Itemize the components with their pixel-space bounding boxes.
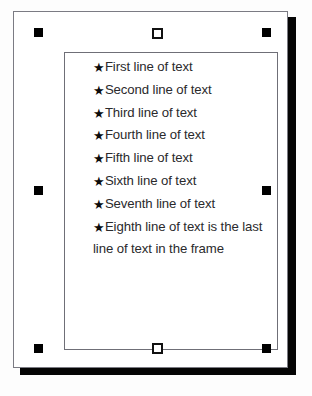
text-line-6: ★Sixth line of text <box>93 170 271 193</box>
selection-handle-bottom-left[interactable] <box>34 344 43 353</box>
star-bullet-icon: ★ <box>93 148 105 171</box>
selection-handle-bottom-center[interactable] <box>152 343 163 354</box>
text-line-8: ★Eighth line of text is the last line of… <box>93 216 271 262</box>
text-line-2: ★Second line of text <box>93 79 271 102</box>
text-line-label: Fourth line of text <box>105 127 205 142</box>
text-line-label: Seventh line of text <box>105 196 215 211</box>
text-line-label: Eighth line of text is the last line of … <box>93 219 262 257</box>
text-line-label: First line of text <box>105 59 193 74</box>
star-bullet-icon: ★ <box>93 79 105 102</box>
selection-handle-middle-right[interactable] <box>262 186 271 195</box>
selection-handle-top-left[interactable] <box>34 28 43 37</box>
selection-handle-bottom-right[interactable] <box>262 344 271 353</box>
selection-handle-middle-left[interactable] <box>34 186 43 195</box>
star-bullet-icon: ★ <box>93 102 105 125</box>
text-frame-content[interactable]: ★First line of text ★Second line of text… <box>93 56 271 261</box>
text-line-5: ★Fifth line of text <box>93 147 271 170</box>
selection-handle-top-right[interactable] <box>262 28 271 37</box>
star-bullet-icon: ★ <box>93 57 105 80</box>
text-line-7: ★Seventh line of text <box>93 193 271 216</box>
text-line-4: ★Fourth line of text <box>93 124 271 147</box>
star-bullet-icon: ★ <box>93 125 105 148</box>
text-line-3: ★Third line of text <box>93 102 271 125</box>
text-line-label: Second line of text <box>105 82 212 97</box>
star-bullet-icon: ★ <box>93 193 105 216</box>
document-canvas[interactable]: ★First line of text ★Second line of text… <box>0 0 312 396</box>
text-line-label: Sixth line of text <box>105 173 196 188</box>
star-bullet-icon: ★ <box>93 216 105 239</box>
document-page[interactable]: ★First line of text ★Second line of text… <box>13 11 288 368</box>
text-line-1: ★First line of text <box>93 56 271 79</box>
selection-handle-top-center[interactable] <box>152 28 163 39</box>
star-bullet-icon: ★ <box>93 170 105 193</box>
text-line-label: Fifth line of text <box>105 150 193 165</box>
selected-text-frame[interactable]: ★First line of text ★Second line of text… <box>64 52 278 350</box>
text-line-label: Third line of text <box>105 105 197 120</box>
